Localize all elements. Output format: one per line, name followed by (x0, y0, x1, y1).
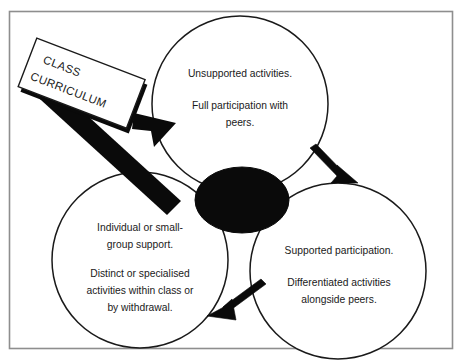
diagram-root: CLASS CURRICULUM Unsupported activities.… (0, 0, 463, 364)
participation-model-diagram: CLASS CURRICULUM Unsupported activities.… (0, 0, 463, 364)
bl-circle-line-3: Distinct or specialised (90, 268, 190, 279)
bl-circle-line-5: by withdrawal. (107, 302, 172, 313)
br-circle-line-2: Differentiated activities (287, 277, 390, 288)
br-circle-line-3: alongside peers. (301, 294, 377, 305)
top-circle-line-2: Full participation with (192, 100, 288, 111)
br-circle-line-0: Supported participation. (285, 245, 394, 256)
top-circle-line-3: peers. (226, 117, 255, 128)
bl-circle-line-4: activities within class or (86, 285, 194, 296)
top-circle-line-0: Unsupported activities. (188, 68, 292, 79)
bl-circle-line-1: group support. (107, 239, 173, 250)
bl-circle-line-0: Individual or small- (97, 222, 183, 233)
central-hub-ellipse (195, 167, 289, 233)
